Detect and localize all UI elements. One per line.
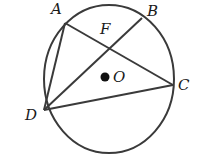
label-c: C [178, 76, 190, 94]
segment-ad [44, 23, 65, 110]
circle-geometry-diagram: A B C D F O [0, 0, 201, 167]
label-d: D [24, 106, 37, 124]
label-b: B [146, 2, 158, 20]
segment-dc [44, 85, 173, 110]
label-f: F [99, 20, 111, 38]
label-o: O [113, 68, 125, 86]
label-a: A [49, 0, 62, 18]
center-point-o [101, 73, 110, 82]
